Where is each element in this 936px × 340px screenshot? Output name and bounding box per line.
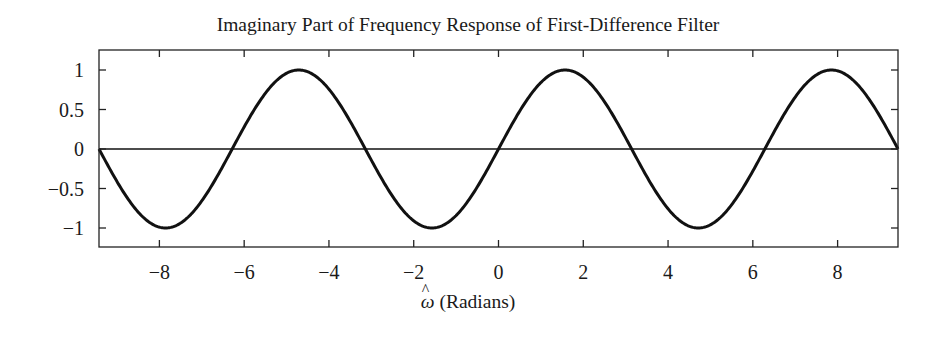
omega-hat-symbol: ^ω xyxy=(421,291,435,312)
y-tick-label: 0 xyxy=(74,138,84,160)
x-tick-label: −2 xyxy=(403,261,424,283)
x-axis-ticks: −8−6−4−202468 xyxy=(149,50,843,283)
x-tick-label: −6 xyxy=(234,261,255,283)
chart-figure: Imaginary Part of Frequency Response of … xyxy=(0,0,936,340)
y-tick-label: 0.5 xyxy=(59,99,84,121)
y-tick-label: −0.5 xyxy=(48,178,84,200)
x-axis-unit: (Radians) xyxy=(439,291,515,312)
x-tick-label: 8 xyxy=(833,261,843,283)
x-tick-label: 0 xyxy=(494,261,504,283)
x-tick-label: 6 xyxy=(748,261,758,283)
x-tick-label: −4 xyxy=(318,261,339,283)
x-tick-label: −8 xyxy=(149,261,170,283)
x-axis-label: ^ω (Radians) xyxy=(0,291,936,313)
plot-area: −8−6−4−202468 10.50−0.5−1 xyxy=(0,0,936,340)
y-tick-label: 1 xyxy=(74,59,84,81)
y-tick-label: −1 xyxy=(63,217,84,239)
x-tick-label: 4 xyxy=(663,261,673,283)
x-tick-label: 2 xyxy=(578,261,588,283)
